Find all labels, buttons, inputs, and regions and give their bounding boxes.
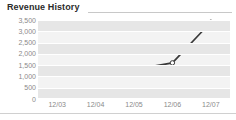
x-axis: 12/0312/0412/0512/0612/07 — [38, 101, 230, 113]
x-axis-tick-label: 12/05 — [114, 101, 154, 109]
gridline — [38, 76, 230, 77]
gridline — [38, 98, 230, 99]
y-axis-tick-label: 1,000 — [2, 73, 36, 80]
y-axis-tick-label: 1,500 — [2, 62, 36, 69]
y-axis-tick-label: 3,500 — [2, 17, 36, 24]
gridline — [38, 20, 230, 21]
plot-band — [38, 20, 230, 31]
x-axis-tick-label: 12/04 — [76, 101, 116, 109]
gridline — [38, 54, 230, 55]
x-axis-tick-label: 12/07 — [191, 101, 231, 109]
y-axis-tick-label: 2,500 — [2, 39, 36, 46]
plot-band — [38, 65, 230, 76]
chart-header: Revenue History — [0, 0, 236, 16]
page-title: Revenue History — [7, 2, 80, 12]
x-axis-tick-label: 12/06 — [152, 101, 192, 109]
widget-bottom-divider — [0, 113, 236, 114]
gridline — [38, 65, 230, 66]
plot-area — [38, 20, 230, 99]
gridline — [38, 88, 230, 89]
y-axis-tick-label: 2,000 — [2, 50, 36, 57]
gridline — [38, 43, 230, 44]
revenue-history-chart-widget: Revenue History 05001,0001,5002,0002,500… — [0, 0, 236, 120]
y-axis-tick-label: 500 — [2, 84, 36, 91]
y-axis-tick-label: 0 — [2, 96, 36, 103]
gridline — [38, 31, 230, 32]
x-axis-tick-label: 12/03 — [37, 101, 77, 109]
plot-band — [38, 43, 230, 54]
y-axis-tick-label: 3,000 — [2, 28, 36, 35]
header-divider — [88, 12, 232, 13]
y-axis: 05001,0001,5002,0002,5003,0003,500 — [0, 20, 36, 99]
